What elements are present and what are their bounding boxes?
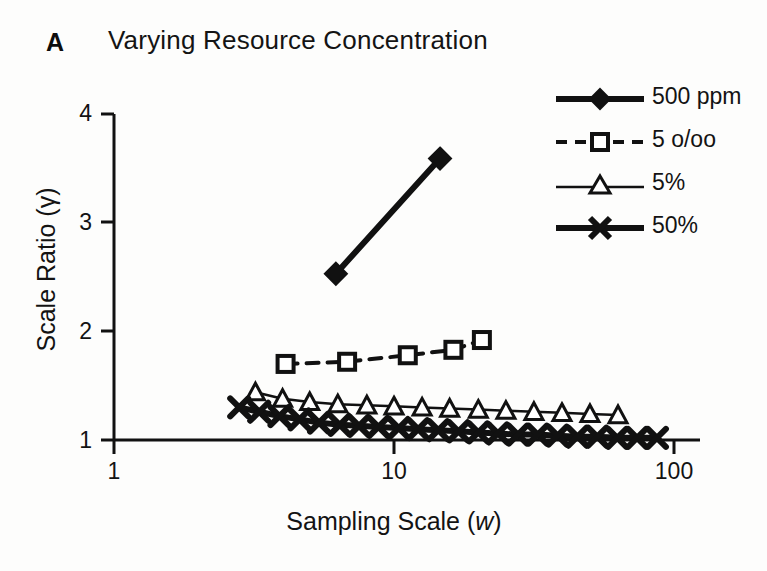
- legend-swatch-open-triangle: [552, 168, 648, 202]
- data-point: [278, 356, 294, 372]
- x-axis-label-text: Sampling Scale (: [286, 507, 475, 535]
- x-axis-label-close: ): [493, 507, 501, 535]
- legend-item-2[interactable]: 5%: [552, 168, 767, 211]
- series-5-o-oo: [278, 332, 490, 372]
- legend-label-1: 5 o/oo: [652, 126, 716, 153]
- data-point: [474, 332, 490, 348]
- x-axis-label-variable: w: [475, 507, 493, 535]
- legend-item-1[interactable]: 5 o/oo: [552, 125, 767, 168]
- x-tick-100: 100: [644, 458, 704, 485]
- legend-swatch-open-square: [552, 125, 648, 159]
- legend-item-3[interactable]: 50%: [552, 211, 767, 254]
- y-tick-2: 2: [62, 318, 92, 345]
- x-axis-label: Sampling Scale (w): [194, 507, 594, 536]
- legend-swatch-x-cross: [552, 211, 648, 245]
- y-tick-4: 4: [62, 100, 92, 127]
- data-point: [445, 342, 461, 358]
- legend-label-2: 5%: [652, 169, 685, 196]
- y-tick-3: 3: [62, 209, 92, 236]
- x-tick-1: 1: [84, 458, 144, 485]
- y-tick-1: 1: [62, 427, 92, 454]
- figure-panel: A Varying Resource Concentration 4 3 2 1…: [0, 0, 767, 571]
- data-point: [400, 347, 416, 363]
- series-500-ppm: [325, 148, 451, 285]
- legend: 500 ppm 5 o/oo 5% 50%: [552, 82, 767, 254]
- legend-label-0: 500 ppm: [652, 83, 742, 110]
- legend-swatch-filled-diamond: [552, 82, 648, 116]
- series-line: [336, 159, 440, 274]
- legend-item-0[interactable]: 500 ppm: [552, 82, 767, 125]
- data-point: [339, 354, 355, 370]
- x-tick-10: 10: [364, 458, 424, 485]
- legend-label-3: 50%: [652, 212, 698, 239]
- y-axis-label: Scale Ratio (γ): [32, 140, 61, 400]
